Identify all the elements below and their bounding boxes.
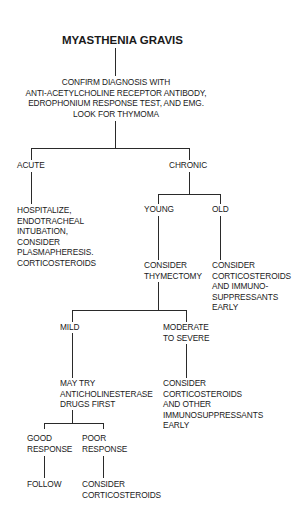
connector — [158, 194, 159, 204]
connector — [189, 172, 190, 194]
text-line: FOLLOW — [27, 479, 61, 490]
connector — [72, 310, 187, 311]
connector — [72, 410, 73, 423]
connector — [44, 423, 104, 424]
old-node: OLD — [212, 204, 229, 215]
connector — [189, 148, 190, 160]
connector — [31, 148, 32, 160]
text-line: DRUGS FIRST — [60, 399, 153, 410]
text-line: CORTICOSTEROIDS — [163, 389, 263, 400]
connector — [44, 423, 45, 429]
mild-action-node: MAY TRY ANTICHOLINESTERASE DRUGS FIRST — [60, 378, 153, 410]
connector — [44, 456, 45, 478]
connector — [31, 148, 190, 149]
text-line: HOSPITALIZE, — [17, 205, 96, 216]
text-line: CORTICOSTEROIDS — [212, 271, 291, 282]
connector — [186, 310, 187, 322]
old-action-node: CONSIDER CORTICOSTEROIDS AND IMMUNO- SUP… — [212, 260, 291, 313]
text-line: CONFIRM DIAGNOSIS WITH — [20, 77, 212, 88]
text-line: RESPONSE — [27, 444, 72, 455]
connector — [115, 48, 116, 76]
text-line: SUPPRESSANTS — [212, 292, 291, 303]
text-line: ANTICHOLINESTERASE — [60, 389, 153, 400]
text-line: CONSIDER — [82, 479, 161, 490]
connector — [158, 216, 159, 260]
acute-action-node: HOSPITALIZE, ENDOTRACHEAL INTUBATION, CO… — [17, 205, 96, 269]
text-line: CORTICOSTEROIDS — [17, 258, 96, 269]
acute-node: ACUTE — [17, 160, 45, 171]
node-label: MILD — [60, 322, 79, 333]
text-line: AND IMMUNO- — [212, 281, 291, 292]
connector — [72, 333, 73, 378]
text-line: INTUBATION, — [17, 226, 96, 237]
connector — [158, 282, 159, 310]
text-line: EDROPHONIUM RESPONSE TEST, AND EMG. — [20, 98, 212, 109]
node-label: CHRONIC — [169, 160, 207, 171]
confirm-diagnosis-node: CONFIRM DIAGNOSIS WITH ANTI-ACETYLCHOLIN… — [20, 77, 212, 119]
good-response-node: GOOD RESPONSE — [27, 433, 72, 454]
connector — [31, 172, 32, 204]
follow-node: FOLLOW — [27, 479, 61, 490]
node-label: ACUTE — [17, 160, 45, 171]
text-line: IMMUNOSUPPRESSANTS — [163, 410, 263, 421]
young-action-node: CONSIDER THYMECTOMY — [144, 260, 202, 281]
connector — [220, 194, 221, 204]
text-line: PLASMAPHERESIS. — [17, 247, 96, 258]
moderate-action-node: CONSIDER CORTICOSTEROIDS AND OTHER IMMUN… — [163, 378, 263, 431]
text-line: ENDOTRACHEAL — [17, 216, 96, 227]
text-line: EARLY — [212, 302, 291, 313]
connector — [72, 310, 73, 322]
text-line: CONSIDER — [17, 237, 96, 248]
diagram-title: MYASTHENIA GRAVIS — [62, 34, 183, 46]
connector — [186, 344, 187, 378]
text-line: TO SEVERE — [163, 333, 209, 344]
chronic-node: CHRONIC — [169, 160, 207, 171]
text-line: CONSIDER — [212, 260, 291, 271]
node-label: YOUNG — [144, 204, 174, 215]
connector — [158, 194, 221, 195]
text-line: ANTI-ACETYLCHOLINE RECEPTOR ANTIBODY, — [20, 88, 212, 99]
text-line: CONSIDER — [144, 260, 202, 271]
text-line: POOR — [82, 433, 127, 444]
text-line: CONSIDER — [163, 378, 263, 389]
text-line: AND OTHER — [163, 399, 263, 410]
text-line: RESPONSE — [82, 444, 127, 455]
connector — [220, 216, 221, 260]
node-label: OLD — [212, 204, 229, 215]
poor-action-node: CONSIDER CORTICOSTEROIDS — [82, 479, 161, 500]
text-line: EARLY — [163, 420, 263, 431]
connector — [103, 456, 104, 478]
text-line: THYMECTOMY — [144, 271, 202, 282]
text-line: GOOD — [27, 433, 72, 444]
connector — [103, 423, 104, 429]
poor-response-node: POOR RESPONSE — [82, 433, 127, 454]
mild-node: MILD — [60, 322, 79, 333]
connector — [115, 121, 116, 149]
text-line: MAY TRY — [60, 378, 153, 389]
text-line: MODERATE — [163, 322, 209, 333]
moderate-node: MODERATE TO SEVERE — [163, 322, 209, 343]
young-node: YOUNG — [144, 204, 174, 215]
text-line: CORTICOSTEROIDS — [82, 490, 161, 501]
text-line: LOOK FOR THYMOMA — [20, 109, 212, 120]
